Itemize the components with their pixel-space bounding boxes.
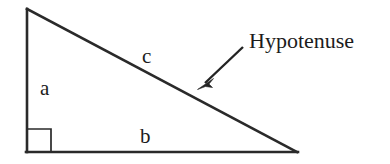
label-leg-b: b [140, 124, 151, 148]
diagram-canvas: a b c Hypotenuse [0, 0, 390, 164]
right-angle-marker-icon [27, 129, 51, 152]
callout-arrow-shaft [205, 47, 243, 83]
right-triangle-diagram: a b c Hypotenuse [0, 0, 390, 164]
callout-arrow-head-icon [198, 79, 214, 90]
label-hypotenuse-c: c [142, 44, 151, 68]
label-leg-a: a [40, 76, 50, 100]
callout-label-hypotenuse: Hypotenuse [249, 28, 354, 53]
